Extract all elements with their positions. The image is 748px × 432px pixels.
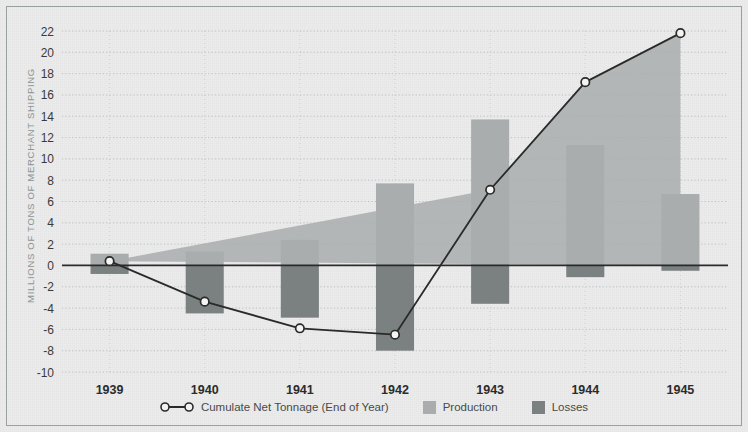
data-point-marker — [486, 186, 494, 194]
production-swatch-icon — [423, 401, 436, 414]
losses-swatch-icon — [532, 401, 545, 414]
y-tick-label: 12 — [41, 131, 55, 145]
y-tick-label: 22 — [41, 25, 55, 39]
y-tick-label: 0 — [47, 259, 54, 273]
losses-bar — [281, 265, 319, 317]
y-tick-labels-group: 2220181614121086420-2-4-6-8-10 — [37, 25, 55, 380]
production-bar — [661, 194, 699, 265]
data-point-marker — [105, 257, 113, 265]
y-tick-label: 4 — [47, 216, 54, 230]
data-point-marker — [296, 324, 304, 332]
y-tick-label: 6 — [47, 195, 54, 209]
production-bar — [186, 252, 224, 266]
chart-plot-area: 2220181614121086420-2-4-6-8-10 193919401… — [0, 0, 748, 432]
data-point-marker — [581, 78, 589, 86]
y-tick-label: -6 — [43, 323, 54, 337]
data-point-marker — [676, 29, 684, 37]
x-tick-label: 1940 — [191, 383, 219, 397]
legend-item-cumulative: Cumulate Net Tonnage (End of Year) — [160, 400, 389, 414]
chart-figure: MILLIONS OF TONS OF MERCHANT SHIPPING 22… — [0, 0, 748, 432]
y-tick-label: 10 — [41, 152, 55, 166]
production-bar — [566, 145, 604, 265]
y-tick-label: 18 — [41, 67, 55, 81]
losses-bar — [566, 265, 604, 277]
x-tick-labels-group: 1939194019411942194319441945 — [96, 383, 695, 397]
production-bar — [376, 183, 414, 265]
y-tick-label: 20 — [41, 46, 55, 60]
x-tick-label: 1942 — [381, 383, 409, 397]
y-tick-label: -10 — [37, 366, 55, 380]
legend-label-production: Production — [443, 401, 498, 413]
legend-item-production: Production — [423, 401, 498, 414]
legend-item-losses: Losses — [532, 401, 588, 414]
chart-legend: Cumulate Net Tonnage (End of Year) Produ… — [0, 400, 748, 414]
y-tick-label: 16 — [41, 88, 55, 102]
x-tick-label: 1939 — [96, 383, 124, 397]
x-tick-label: 1945 — [667, 383, 695, 397]
y-tick-label: 14 — [41, 110, 55, 124]
data-point-marker — [201, 297, 209, 305]
x-tick-label: 1943 — [476, 383, 504, 397]
losses-bar — [471, 265, 509, 303]
data-point-marker — [391, 331, 399, 339]
y-tick-label: 2 — [47, 238, 54, 252]
x-tick-label: 1944 — [571, 383, 599, 397]
production-bar — [281, 240, 319, 266]
legend-label-cumulative: Cumulate Net Tonnage (End of Year) — [201, 401, 389, 413]
x-tick-label: 1941 — [286, 383, 314, 397]
legend-label-losses: Losses — [552, 401, 588, 413]
y-tick-label: -2 — [43, 280, 54, 294]
y-tick-label: 8 — [47, 174, 54, 188]
y-tick-label: -8 — [43, 344, 54, 358]
y-tick-label: -4 — [43, 302, 54, 316]
line-with-circles-icon — [160, 400, 194, 414]
